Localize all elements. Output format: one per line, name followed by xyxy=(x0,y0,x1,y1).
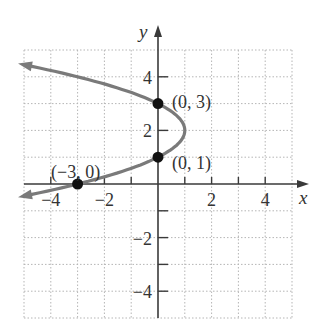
point-label: (0, 3) xyxy=(172,92,211,113)
x-tick-label: 4 xyxy=(261,190,270,210)
point-label: (0, 1) xyxy=(172,153,211,174)
y-tick-label: −4 xyxy=(133,282,152,302)
y-tick-label: −2 xyxy=(133,229,152,249)
y-tick-label: 4 xyxy=(143,68,152,88)
y-tick-label: 2 xyxy=(143,121,152,141)
curve-arrow-icon xyxy=(18,61,33,71)
point-marker xyxy=(153,152,164,163)
x-tick-label: 2 xyxy=(207,190,216,210)
point-marker xyxy=(153,98,164,109)
parabola-chart: −4−224−4−224 (0, 3)(0, 1)(−3, 0) x y xyxy=(0,0,329,328)
y-axis-label: y xyxy=(137,21,148,42)
x-tick-label: −2 xyxy=(95,190,114,210)
point-label: (−3, 0) xyxy=(51,162,100,183)
y-axis-arrow-icon xyxy=(154,25,162,37)
x-axis-label: x xyxy=(298,187,308,208)
curve-arrow-icon xyxy=(18,190,33,200)
